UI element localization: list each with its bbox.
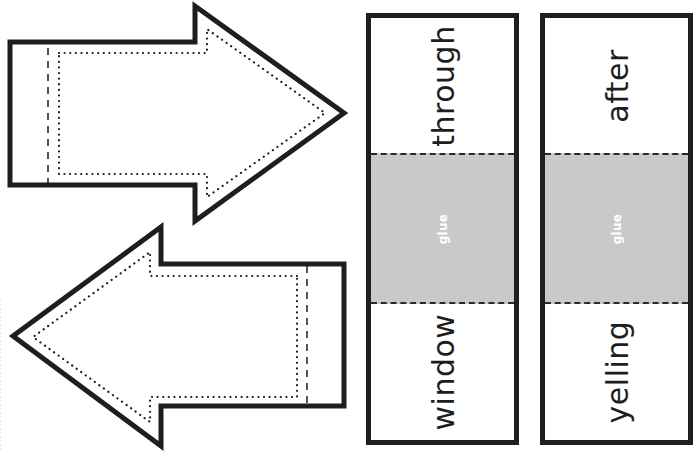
strip-1-bottom-panel: window (371, 304, 514, 440)
strip-2-top-word: after (599, 49, 634, 122)
strip-2-bottom-panel: yelling (545, 304, 688, 440)
strip-1-glue-label: glue (436, 213, 450, 244)
strip-2-bottom-word: yelling (599, 321, 634, 424)
word-strip-2: after glue yelling (540, 13, 693, 445)
left-arrow-icon (13, 227, 344, 446)
strip-2-top-panel: after (545, 18, 688, 153)
strip-1-bottom-word: window (425, 314, 460, 431)
strip-2-glue-zone: glue (545, 153, 688, 304)
strip-1-top-word: through (425, 25, 460, 146)
right-arrow-icon (10, 6, 344, 221)
strip-2-glue-label: glue (610, 213, 624, 244)
strip-1-glue-zone: glue (371, 153, 514, 304)
word-strip-1: through glue window (366, 13, 519, 445)
strip-1-top-panel: through (371, 18, 514, 153)
